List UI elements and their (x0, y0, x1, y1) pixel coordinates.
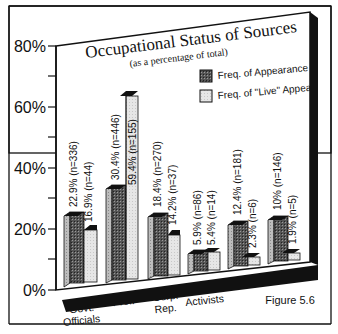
label-corp-appearance: 18.4% (n=270) (152, 141, 163, 207)
label-govt-live: 16.9% (n=44) (83, 162, 94, 222)
legend-swatch-live (200, 90, 212, 102)
label-prof-appearance: 30.4% (n=446) (110, 114, 121, 180)
label-govt-appearance: 22.9% (n=336) (68, 141, 79, 207)
label-corp-live: 14.2% (n=37) (167, 165, 178, 225)
category-corp-line2: Rep. (154, 301, 177, 315)
y-tick-60: 60% (14, 99, 46, 116)
y-tick-40: 40% (14, 160, 46, 177)
figure-caption: Figure 5.6 (265, 294, 315, 306)
bar-group-citizen (188, 248, 220, 274)
label-other-appearance: 10% (n=146) (272, 152, 283, 210)
y-tick-0: 0% (23, 282, 46, 299)
label-unknowns-appearance: 12.4% (n=181) (232, 149, 243, 215)
y-tick-20: 20% (14, 221, 46, 238)
label-unknowns-live: 2.3% (n=6) (247, 199, 258, 248)
category-prof: Prof. (112, 294, 135, 308)
label-citizen-live: 5.4% (n=14) (206, 190, 217, 245)
legend-swatch-appearance (200, 70, 212, 82)
y-tick-80: 80% (14, 38, 46, 55)
label-citizen-appearance: 5.9% (n=86) (192, 190, 203, 245)
label-other-live: 1.9% (n=5) (287, 195, 298, 244)
label-prof-live: 59.4% (n=155) (127, 119, 138, 185)
category-govt-line2: Officials (62, 312, 100, 328)
chart-figure: 80% 60% 40% 20% 0% Occupational Status o… (0, 0, 338, 334)
